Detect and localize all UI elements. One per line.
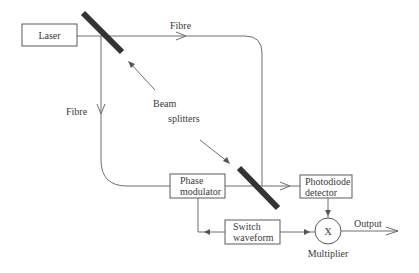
switch-waveform-label-line1: Switch xyxy=(233,221,261,232)
multiplier-label: Multiplier xyxy=(308,248,349,259)
switch-waveform-label-line2: waveform xyxy=(233,232,274,243)
fibre-label-left: Fibre xyxy=(66,106,88,117)
interferometer-diagram: Laser Phase modulator Photodiode detecto… xyxy=(0,0,419,273)
splitters-label: splitters xyxy=(168,113,200,124)
arrow-head-to-multiplier xyxy=(325,210,331,216)
path-switch-to-modulator xyxy=(198,198,225,232)
phase-modulator-label-line1: Phase xyxy=(180,175,204,186)
fibre-path-left xyxy=(101,36,170,186)
output-label: Output xyxy=(354,218,382,229)
pointer-line-top xyxy=(130,63,155,90)
beam-splitter-top xyxy=(83,13,122,52)
fibre-path-top xyxy=(77,36,262,186)
pointer-line-bottom xyxy=(200,140,228,162)
beam-splitter-bottom xyxy=(239,168,278,208)
arrow-head-switch-to-multiplier xyxy=(304,229,310,235)
phase-modulator-label-line2: modulator xyxy=(180,186,222,197)
beam-label: Beam xyxy=(153,98,177,109)
photodiode-label-line1: Photodiode xyxy=(305,176,351,187)
multiplier-symbol: X xyxy=(324,226,332,237)
photodiode-label-line2: detector xyxy=(305,187,338,198)
pointer-arrow-bottom-icon xyxy=(223,157,230,164)
laser-label: Laser xyxy=(38,30,61,41)
fibre-label-top: Fibre xyxy=(170,20,192,31)
arrow-head-switch-to-modulator xyxy=(204,229,210,235)
